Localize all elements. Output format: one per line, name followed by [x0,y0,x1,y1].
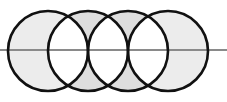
overlapping-circles-diagram [0,0,227,102]
